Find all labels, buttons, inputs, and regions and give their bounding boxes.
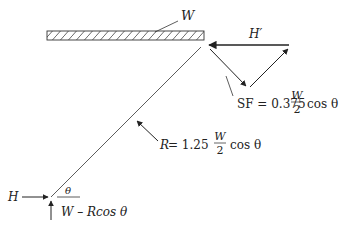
beam [47, 31, 204, 40]
svg-text:cos θ: cos θ [230, 138, 261, 152]
strut-line [51, 47, 201, 197]
reaction-arrow [137, 121, 158, 141]
h-label: H [7, 190, 19, 204]
beam-weight-label: W [181, 8, 196, 23]
h-prime-label: H′ [248, 27, 262, 41]
svg-text:2: 2 [294, 103, 301, 116]
vertical-reaction-label: W – Rcos θ [61, 205, 128, 219]
shear-force-label: SF = 0.375 W 2 cos θ [237, 89, 338, 116]
shear-force-leader [226, 76, 233, 96]
resultant-arrow [250, 49, 288, 87]
reaction-label: R = 1.25 W 2 cos θ [159, 130, 261, 157]
svg-text:= 1.25: = 1.25 [168, 138, 209, 152]
svg-text:cos θ: cos θ [307, 97, 338, 111]
svg-text:W: W [291, 89, 304, 102]
angle-label: θ [65, 185, 71, 196]
svg-text:2: 2 [217, 144, 224, 157]
beam-weight-leader [155, 21, 178, 32]
svg-text:W: W [214, 130, 227, 143]
shear-force-arrow [210, 49, 246, 86]
free-body-diagram: W H′ SF = 0.375 W 2 cos θ R = 1.25 W 2 c… [0, 0, 347, 233]
